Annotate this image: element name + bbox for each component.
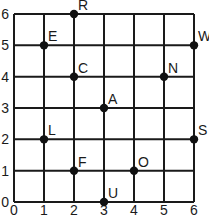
tick-labels: 01234560123456 bbox=[1, 6, 198, 216]
point-label-o: O bbox=[138, 154, 149, 170]
point-l bbox=[40, 135, 48, 143]
point-label-s: S bbox=[198, 122, 207, 138]
x-tick-label: 5 bbox=[160, 202, 168, 216]
x-tick-label: 4 bbox=[130, 202, 138, 216]
x-tick-label: 2 bbox=[70, 202, 78, 216]
x-tick-label: 1 bbox=[40, 202, 48, 216]
point-w bbox=[190, 41, 198, 49]
point-r bbox=[70, 10, 78, 18]
point-s bbox=[190, 135, 198, 143]
x-tick-label: 6 bbox=[190, 202, 198, 216]
points: REWCNALSFOU bbox=[40, 0, 209, 206]
y-tick-label: 1 bbox=[1, 163, 9, 179]
point-label-f: F bbox=[78, 154, 87, 170]
coordinate-grid: 01234560123456 REWCNALSFOU bbox=[0, 0, 209, 216]
y-tick-label: 6 bbox=[1, 6, 9, 22]
point-label-a: A bbox=[108, 91, 118, 107]
point-o bbox=[130, 166, 138, 174]
point-label-e: E bbox=[48, 28, 57, 44]
point-label-r: R bbox=[78, 0, 88, 13]
point-f bbox=[70, 166, 78, 174]
y-tick-label: 0 bbox=[1, 194, 9, 210]
x-tick-label: 0 bbox=[10, 202, 18, 216]
y-tick-label: 2 bbox=[1, 131, 9, 147]
point-a bbox=[100, 104, 108, 112]
point-u bbox=[100, 198, 108, 206]
point-label-l: L bbox=[48, 122, 56, 138]
point-e bbox=[40, 41, 48, 49]
y-tick-label: 4 bbox=[1, 69, 9, 85]
y-tick-label: 3 bbox=[1, 100, 9, 116]
point-label-n: N bbox=[168, 60, 178, 76]
point-label-w: W bbox=[198, 28, 209, 44]
point-c bbox=[70, 72, 78, 80]
y-tick-label: 5 bbox=[1, 37, 9, 53]
point-label-u: U bbox=[108, 185, 118, 201]
point-n bbox=[160, 72, 168, 80]
point-label-c: C bbox=[78, 60, 88, 76]
